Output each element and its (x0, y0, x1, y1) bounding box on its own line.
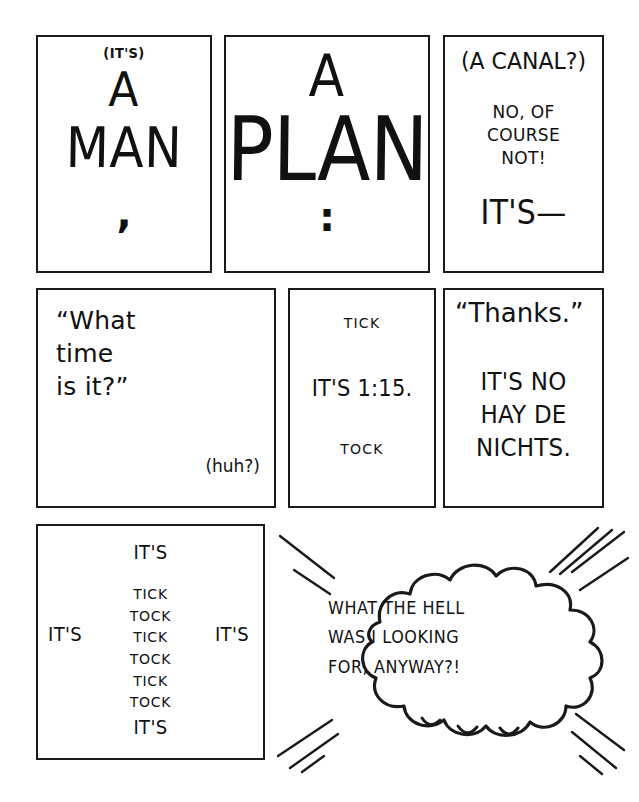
panel-1-punctuation: , (38, 192, 210, 234)
panel-4-question: “What time is it?” (56, 304, 136, 403)
panel-2-punctuation: : (226, 197, 428, 237)
panel-5-sfx-tick: TICK (290, 316, 434, 331)
panel-2-word-plan: PLAN (225, 103, 428, 196)
panel-3-aside: (A CANAL?) (445, 48, 602, 73)
panel-7-its-bottom: IT'S (38, 719, 263, 739)
panel-7-ticktock: TICK TOCK TICK TOCK TICK TOCK (38, 584, 263, 714)
panel-4-aside: (huh?) (205, 458, 260, 476)
comic-panel-5: TICK IT'S 1:15. TOCK (288, 288, 436, 508)
panel-7-its-top: IT'S (38, 543, 263, 563)
comic-panel-7: IT'S IT'S TICK TOCK TICK TOCK TICK TOCK … (36, 524, 265, 760)
comic-panel-2: A PLAN : (224, 35, 430, 273)
panel-1-word-a: A (38, 65, 211, 115)
panel-7-its-right: IT'S (215, 625, 249, 645)
comic-panel-4: “What time is it?” (huh?) (36, 288, 276, 508)
panel-8-thought-text: WHAT THE HELL WAS I LOOKING FOR, ANYWAY?… (328, 594, 578, 682)
panel-1-aside: (IT'S) (38, 47, 210, 61)
panel-5-sfx-tock: TOCK (290, 442, 434, 457)
comic-panel-6: “Thanks.” IT'S NO HAY DE NICHTS. (443, 288, 604, 508)
panel-5-answer: IT'S 1:15. (290, 377, 434, 400)
comic-panel-3: (A CANAL?) NO, OF COURSE NOT! IT'S— (443, 35, 604, 273)
panel-6-thanks: “Thanks.” (455, 300, 584, 327)
panel-3-tagline: IT'S— (445, 195, 602, 230)
panel-6-reply: IT'S NO HAY DE NICHTS. (445, 366, 602, 466)
comic-panel-1: (IT'S) A MAN , (36, 35, 212, 273)
panel-3-reply: NO, OF COURSE NOT! (445, 101, 602, 170)
comic-panel-8: WHAT THE HELL WAS I LOOKING FOR, ANYWAY?… (272, 518, 632, 780)
panel-1-word-man: MAN (38, 119, 211, 178)
comic-page: (IT'S) A MAN , A PLAN : (A CANAL?) NO, O… (0, 0, 639, 802)
